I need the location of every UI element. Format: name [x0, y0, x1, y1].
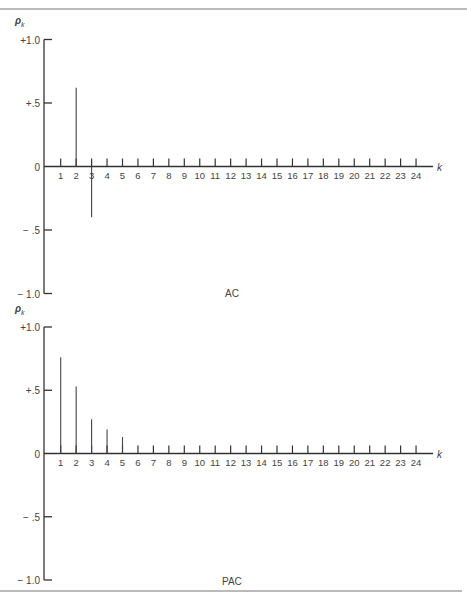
x-tick-label: 22: [380, 170, 391, 181]
x-tick-label: 17: [303, 457, 314, 468]
x-tick-label: 10: [194, 170, 205, 181]
x-tick-label: 11: [210, 457, 220, 468]
x-tick-label: 20: [349, 457, 360, 468]
y-tick-label: +1.0: [20, 35, 40, 46]
pac-chart: ρk+1.0+.50− .5− 1.0k12345678910111213141…: [14, 303, 443, 587]
x-tick-label: 14: [256, 170, 267, 181]
chart-title: PAC: [222, 576, 242, 587]
x-tick-label: 19: [334, 457, 345, 468]
x-tick-label: 5: [120, 170, 125, 181]
x-tick-label: 12: [225, 170, 236, 181]
x-tick-label: 13: [241, 170, 252, 181]
x-tick-label: 14: [256, 457, 267, 468]
x-tick-label: 9: [182, 170, 187, 181]
x-tick-label: 8: [166, 457, 171, 468]
y-axis-label: ρk: [14, 303, 25, 316]
acf-pacf-figure: ρk+1.0+.50− .5− 1.0k12345678910111213141…: [0, 0, 467, 607]
x-tick-label: 11: [210, 170, 220, 181]
y-tick-label: − 1.0: [17, 575, 40, 586]
x-tick-label: 19: [334, 170, 345, 181]
x-tick-label: 8: [166, 170, 171, 181]
x-tick-label: 12: [225, 457, 236, 468]
x-tick-label: 6: [135, 457, 140, 468]
x-tick-label: 1: [58, 170, 63, 181]
x-tick-label: 23: [395, 457, 406, 468]
x-tick-label: 18: [318, 457, 329, 468]
chart-title: AC: [225, 288, 239, 299]
x-tick-label: 13: [241, 457, 252, 468]
x-tick-label: 4: [104, 170, 109, 181]
x-tick-label: 24: [411, 170, 422, 181]
x-tick-label: 16: [287, 170, 298, 181]
x-tick-label: 1: [58, 457, 63, 468]
x-tick-label: 6: [135, 170, 140, 181]
x-tick-label: 2: [74, 457, 79, 468]
x-tick-label: 16: [287, 457, 298, 468]
x-tick-label: 22: [380, 457, 391, 468]
x-tick-label: 18: [318, 170, 329, 181]
y-tick-label: +1.0: [20, 322, 40, 333]
ac-chart: ρk+1.0+.50− .5− 1.0k12345678910111213141…: [14, 15, 443, 300]
y-tick-label: +.5: [26, 98, 41, 109]
x-tick-label: 15: [272, 457, 283, 468]
y-tick-label: − .5: [23, 512, 40, 523]
y-tick-label: +.5: [26, 385, 41, 396]
y-tick-label: − 1.0: [17, 289, 40, 300]
x-tick-label: 24: [411, 457, 422, 468]
x-tick-label: 15: [272, 170, 283, 181]
x-tick-label: 7: [151, 170, 156, 181]
y-tick-label: − .5: [23, 225, 40, 236]
x-tick-label: 21: [364, 457, 375, 468]
x-tick-label: 5: [120, 457, 125, 468]
x-tick-label: 17: [303, 170, 314, 181]
x-axis-label: k: [437, 162, 443, 173]
x-tick-label: 2: [74, 170, 79, 181]
x-tick-label: 20: [349, 170, 360, 181]
y-axis-label: ρk: [14, 15, 25, 28]
x-tick-label: 9: [182, 457, 187, 468]
x-tick-label: 10: [194, 457, 205, 468]
x-tick-label: 3: [89, 457, 94, 468]
x-tick-label: 23: [395, 170, 406, 181]
x-tick-label: 4: [104, 457, 109, 468]
x-axis-label: k: [437, 449, 443, 460]
y-tick-label: 0: [34, 162, 40, 173]
x-tick-label: 21: [364, 170, 375, 181]
x-tick-label: 7: [151, 457, 156, 468]
y-tick-label: 0: [34, 449, 40, 460]
